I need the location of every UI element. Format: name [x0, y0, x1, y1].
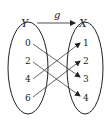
domain-element-0: 0	[25, 38, 31, 48]
domain-element-4: 4	[25, 74, 31, 84]
domain-element-6: 6	[25, 93, 31, 103]
function-name-label: g	[54, 9, 60, 20]
codomain-element-2: 2	[83, 56, 89, 66]
codomain-set-name: X	[78, 17, 88, 30]
codomain-element-3: 3	[83, 74, 89, 84]
mapping-arrow-4-to-1	[33, 43, 80, 79]
domain-element-2: 2	[25, 56, 31, 66]
mapping-diagram: Y X g 0 2 4 6 1 2 3 4	[0, 0, 109, 122]
domain-set-name: Y	[21, 17, 30, 30]
mapping-arrow-6-to-2	[33, 61, 80, 97]
codomain-element-4: 4	[83, 93, 89, 103]
codomain-element-1: 1	[83, 38, 89, 48]
mapping-arrow-0-to-3	[33, 44, 80, 77]
